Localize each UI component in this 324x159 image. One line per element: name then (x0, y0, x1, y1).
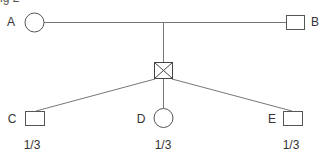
child-c-label: C (8, 112, 17, 126)
child-d-label: D (137, 112, 146, 126)
parent-b-square-icon (287, 16, 305, 30)
child-line-c (36, 79, 155, 111)
child-e-label: E (268, 112, 276, 126)
child-d-probability: 1/3 (155, 138, 172, 152)
parent-a-circle-icon (25, 13, 44, 32)
parent-b-label: B (311, 15, 319, 29)
pedigree-figure: ig 2 A B C D E 1/3 1/3 1/3 (0, 0, 324, 159)
pedigree-diagram (0, 0, 324, 159)
child-c-probability: 1/3 (24, 138, 41, 152)
crossed-box-icon (155, 63, 173, 79)
child-e-probability: 1/3 (283, 138, 300, 152)
child-line-e (172, 79, 292, 111)
child-c-square-icon (26, 112, 45, 126)
parent-a-label: A (7, 15, 15, 29)
child-e-square-icon (284, 112, 303, 126)
child-d-circle-icon (154, 109, 173, 128)
